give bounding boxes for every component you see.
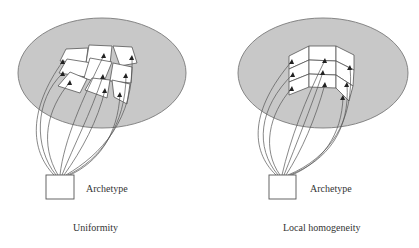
panel-local-homogeneity: Archetype Local homogeneity bbox=[238, 18, 408, 233]
archetype-label: Archetype bbox=[310, 183, 352, 194]
caption-local-homogeneity: Local homogeneity bbox=[283, 222, 360, 233]
archetype-box bbox=[46, 175, 74, 199]
panel-uniformity: Archetype Uniformity bbox=[18, 18, 186, 233]
archetype-label: Archetype bbox=[86, 183, 128, 194]
patch bbox=[309, 46, 336, 61]
archetype-box bbox=[269, 175, 296, 199]
diagram-canvas: Archetype Uniformity bbox=[0, 0, 419, 248]
caption-uniformity: Uniformity bbox=[73, 222, 118, 233]
